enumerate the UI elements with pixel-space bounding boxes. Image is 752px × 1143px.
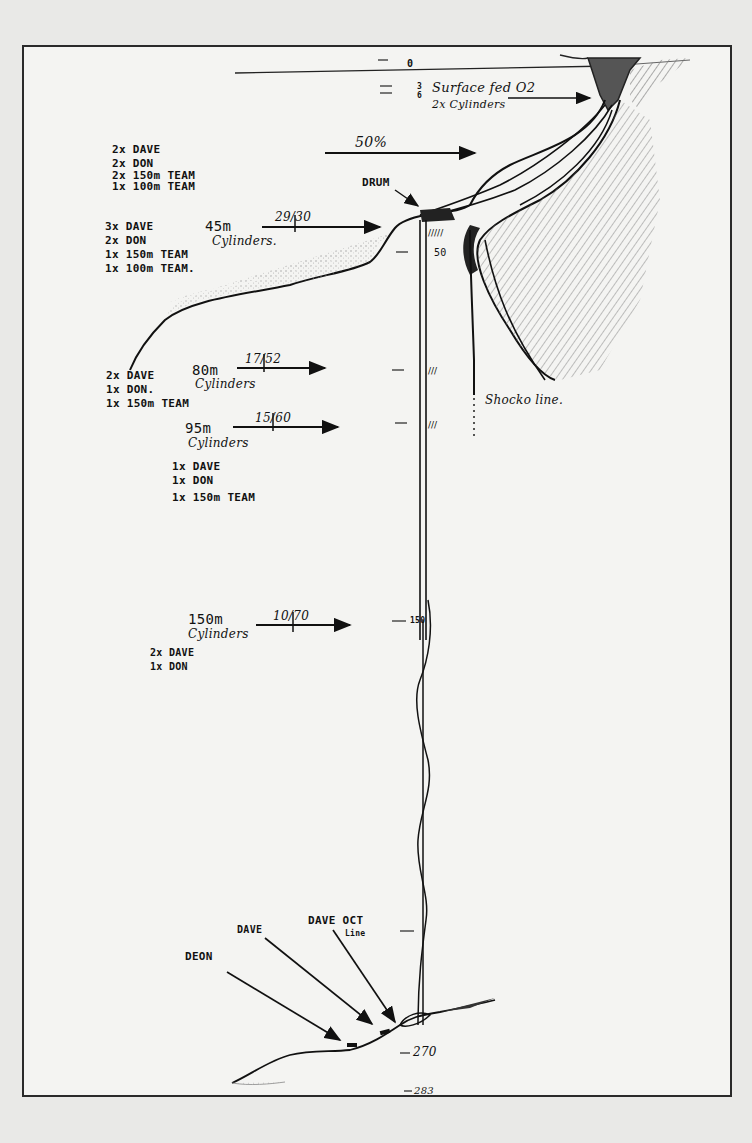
depth-95m-label: 95m: [185, 421, 211, 435]
stage-item: 1x 150m TEAM: [106, 397, 189, 411]
cylinders-80m-label: Cylinders: [195, 377, 256, 391]
stage-list-45m: 3x DAVE 2x DON 1x 150m TEAM 1x 100m TEAM…: [105, 220, 195, 276]
dave-oct-line-sublabel: Line: [345, 927, 365, 941]
shocko-line-label: Shocko line.: [485, 393, 563, 407]
dave-oct-line-label: DAVE OCT: [308, 914, 363, 928]
gas-95m-label: 15/60: [255, 411, 291, 425]
svg-text:///: ///: [428, 420, 438, 430]
stage-item: 3x DAVE: [105, 220, 195, 234]
cylinders-150m-label: Cylinders: [188, 627, 249, 641]
svg-text://///: /////: [428, 228, 444, 238]
stage-list-80m: 2x DAVE 1x DON. 1x 150m TEAM: [106, 369, 189, 411]
stage-list-50pct: 2x DAVE 2x DON 2x 150m TEAM 1x 100m TEAM: [112, 143, 195, 194]
shot-line-mark-50: 50: [434, 246, 447, 260]
surface-o2-label: Surface fed O2: [432, 81, 535, 95]
cave-floor: [232, 1000, 495, 1083]
cylinders-95m-label: Cylinders: [188, 436, 249, 450]
depth-mark-0: 0: [407, 57, 413, 71]
gas-150m-label: 10/70: [273, 609, 309, 623]
drum-label: DRUM: [362, 176, 390, 190]
stage-item: 1x 150m TEAM: [105, 248, 195, 262]
stage-item: 1x 150m TEAM: [172, 491, 255, 505]
shot-line-mark-150: 150: [410, 614, 425, 628]
arrow-dave-oct: [333, 930, 395, 1022]
stage-item: 1x DON: [172, 474, 255, 488]
arrow-deon: [227, 972, 340, 1040]
arrow-dave: [265, 938, 372, 1024]
depth-283-label: 283: [414, 1084, 434, 1098]
stage-item: 2x DAVE: [150, 646, 194, 660]
depth-mark-6: 6: [417, 89, 422, 103]
gas-80m-label: 17/52: [245, 352, 281, 366]
dave-label: DAVE: [237, 923, 262, 937]
stage-item: 2x DAVE: [112, 143, 195, 157]
stage-item: 1x DON.: [106, 383, 189, 397]
depth-270-label: 270: [413, 1045, 437, 1059]
gas-50pct-label: 50%: [355, 135, 387, 149]
depth-45m-label: 45m: [205, 219, 231, 233]
stage-item: 1x DAVE: [172, 460, 255, 474]
drum: [420, 208, 455, 222]
stage-item: 1x DON: [150, 660, 194, 674]
surface-o2-cylinders-label: 2x Cylinders: [432, 98, 506, 112]
gas-45m-label: 29/30: [275, 210, 311, 224]
stage-item: 2x DAVE: [106, 369, 189, 383]
stage-item: 2x DON: [105, 234, 195, 248]
stage-list-150m: 2x DAVE 1x DON: [150, 646, 194, 674]
cylinders-45m-label: Cylinders.: [212, 234, 277, 248]
stage-list-95m: 1x DAVE 1x DON 1x 150m TEAM: [172, 460, 255, 505]
stage-item: 1x 100m TEAM: [112, 180, 195, 194]
stage-item: 1x 100m TEAM.: [105, 262, 195, 276]
svg-text:///: ///: [428, 366, 438, 376]
depth-150m-label: 150m: [188, 612, 223, 626]
depth-80m-label: 80m: [192, 363, 218, 377]
deon-label: DEON: [185, 950, 213, 964]
water-surface-line: [235, 66, 610, 73]
